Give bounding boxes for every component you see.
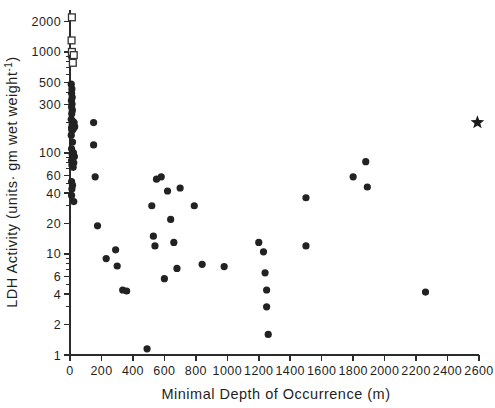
data-point-filled-circle (150, 233, 157, 240)
data-point-star (471, 115, 485, 128)
y-tick-label: 4 (54, 288, 61, 302)
data-point-filled-circle (68, 132, 75, 139)
data-point-filled-circle (191, 202, 198, 209)
data-point-filled-circle (221, 263, 228, 270)
data-point-filled-circle (362, 158, 369, 165)
data-point-filled-circle (68, 192, 75, 199)
data-point-filled-circle (68, 185, 75, 192)
x-tick-label: 1800 (338, 364, 367, 378)
data-point-filled-circle (170, 239, 177, 246)
x-tick-label: 2000 (370, 364, 399, 378)
data-point-filled-circle (422, 288, 429, 295)
y-tick-label: 300 (39, 98, 61, 112)
data-point-filled-circle (364, 183, 371, 190)
data-point-filled-circle (90, 141, 97, 148)
data-point-filled-circle (261, 269, 268, 276)
scatter-plot: 12461020406010030050010002000 0200400600… (0, 0, 495, 408)
x-tick-label: 800 (185, 364, 207, 378)
y-tick-label: 2 (54, 318, 61, 332)
x-tick-label: 2200 (401, 364, 430, 378)
chart-figure: 12461020406010030050010002000 0200400600… (0, 0, 495, 408)
data-point-filled-circle (92, 173, 99, 180)
data-point-open-square (68, 14, 75, 21)
x-tick-label: 2400 (433, 364, 462, 378)
y-tick-label: 1000 (32, 45, 61, 59)
x-tick-label: 200 (90, 364, 112, 378)
x-tick-label: 1600 (307, 364, 336, 378)
data-point-filled-circle (177, 184, 184, 191)
y-axis-title: LDH Activity (units· gm wet weight-1) (3, 56, 20, 307)
data-point-filled-circle (158, 173, 165, 180)
x-axis-tick-labels: 0200400600800100012001400160018002000220… (66, 364, 493, 378)
data-point-filled-circle (173, 265, 180, 272)
data-point-filled-circle (265, 331, 272, 338)
data-point-filled-circle (123, 287, 130, 294)
y-tick-label: 500 (39, 76, 61, 90)
data-point-filled-circle (70, 164, 77, 171)
data-point-filled-circle (263, 286, 270, 293)
data-point-filled-circle (255, 239, 262, 246)
y-tick-label: 6 (54, 270, 61, 284)
x-axis-ticks (70, 355, 479, 361)
data-point-filled-circle (164, 187, 171, 194)
x-tick-label: 600 (153, 364, 175, 378)
x-tick-label: 0 (66, 364, 73, 378)
axes-group (70, 10, 479, 355)
data-point-filled-circle (148, 202, 155, 209)
y-tick-label: 100 (39, 146, 61, 160)
y-axis-tick-labels: 12461020406010030050010002000 (32, 15, 61, 362)
y-tick-label: 2000 (32, 15, 61, 29)
x-tick-label: 1200 (244, 364, 273, 378)
data-point-filled-circle (70, 198, 77, 205)
data-point-filled-circle (260, 248, 267, 255)
data-point-open-square (69, 59, 76, 66)
x-tick-label: 2600 (464, 364, 493, 378)
data-point-open-square (70, 52, 77, 59)
data-point-filled-circle (114, 262, 121, 269)
data-point-filled-circle (263, 303, 270, 310)
x-tick-label: 1400 (276, 364, 305, 378)
y-tick-label: 60 (46, 169, 61, 183)
x-tick-label: 400 (122, 364, 144, 378)
data-point-filled-circle (350, 173, 357, 180)
y-tick-label: 40 (46, 187, 61, 201)
x-tick-label: 1000 (213, 364, 242, 378)
data-point-filled-circle (90, 119, 97, 126)
y-tick-label: 10 (46, 247, 61, 261)
data-point-filled-circle (167, 216, 174, 223)
data-point-filled-circle (199, 261, 206, 268)
x-axis-title: Minimal Depth of Occurrence (m) (161, 386, 390, 402)
data-point-filled-circle (103, 255, 110, 262)
y-tick-label: 20 (46, 217, 61, 231)
data-point-filled-circle (151, 242, 158, 249)
data-point-filled-circle (161, 275, 168, 282)
data-point-filled-circle (143, 345, 150, 352)
data-point-filled-circle (94, 222, 101, 229)
data-point-open-square (68, 37, 75, 44)
data-point-layer (68, 14, 485, 353)
data-point-filled-circle (112, 246, 119, 253)
data-point-filled-circle (69, 139, 76, 146)
data-point-filled-circle (302, 242, 309, 249)
y-tick-label: 1 (54, 349, 61, 363)
data-point-filled-circle (302, 194, 309, 201)
